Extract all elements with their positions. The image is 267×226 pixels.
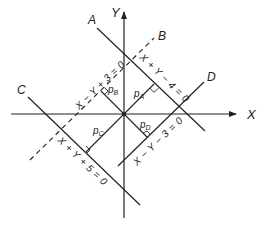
perpendicular-pc: [86, 114, 124, 152]
line-b-equation: X − Y + 3 = 0: [72, 59, 127, 113]
right-angle-marker-pa: [150, 88, 158, 92]
line-c-equation: X + Y + 5 = 0: [55, 134, 110, 188]
perpendicular-pd-label: pD: [139, 119, 151, 131]
diagram-canvas: X Y A X + Y − 4 = 0 B X − Y + 3 = 0 C X …: [0, 0, 267, 226]
perpendicular-pc-label: pC: [92, 125, 105, 137]
perpendicular-pa-label: pA: [133, 88, 145, 100]
line-a-equation: X + Y − 4 = 0: [137, 51, 192, 105]
line-c-label: C: [17, 83, 26, 97]
line-d-label: D: [207, 70, 216, 84]
x-axis-label: X: [246, 107, 257, 122]
line-a-label: A: [87, 13, 96, 27]
perpendicular-pb-label: pB: [107, 84, 119, 96]
line-d-equation: X − Y − 3 = 0: [130, 115, 185, 169]
line-b-label: B: [158, 29, 166, 43]
normal-form-lines-diagram: X Y A X + Y − 4 = 0 B X − Y + 3 = 0 C X …: [0, 0, 267, 226]
y-axis-label: Y: [111, 5, 121, 20]
line-d: [118, 82, 204, 166]
